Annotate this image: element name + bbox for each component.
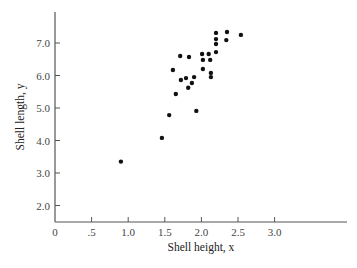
y-tick-label: 2.0 bbox=[36, 200, 50, 212]
data-point bbox=[178, 54, 182, 58]
y-axis: 2.03.04.05.06.07.0 Shell length, y bbox=[14, 12, 60, 222]
x-tick-label: 0 bbox=[52, 226, 58, 238]
data-point bbox=[187, 55, 191, 59]
data-point bbox=[214, 50, 218, 54]
data-point bbox=[179, 78, 183, 82]
data-point bbox=[214, 37, 218, 41]
x-tick-label: 1.5 bbox=[158, 226, 172, 238]
data-point bbox=[194, 109, 198, 113]
y-ticks: 2.03.04.05.06.07.0 bbox=[36, 37, 60, 212]
data-point bbox=[214, 31, 218, 35]
data-point bbox=[190, 81, 194, 85]
data-point bbox=[225, 30, 229, 34]
data-point bbox=[209, 75, 213, 79]
data-point bbox=[200, 52, 204, 56]
y-tick-label: 4.0 bbox=[36, 135, 50, 147]
data-point bbox=[208, 58, 212, 62]
data-point bbox=[167, 113, 171, 117]
data-point bbox=[209, 71, 213, 75]
scatter-chart: 2.03.04.05.06.07.0 Shell length, y 0.51.… bbox=[0, 0, 357, 268]
x-tick-label: 2.5 bbox=[231, 226, 245, 238]
data-point bbox=[224, 38, 228, 42]
y-tick-label: 5.0 bbox=[36, 102, 50, 114]
y-tick-label: 6.0 bbox=[36, 70, 50, 82]
x-tick-label: .5 bbox=[87, 226, 96, 238]
data-point bbox=[171, 68, 175, 72]
x-tick-label: 3.0 bbox=[268, 226, 282, 238]
data-point bbox=[201, 58, 205, 62]
data-point bbox=[207, 52, 211, 56]
data-point bbox=[186, 86, 190, 90]
data-point bbox=[239, 33, 243, 37]
x-tick-label: 1.0 bbox=[121, 226, 135, 238]
data-points bbox=[119, 30, 243, 164]
data-point bbox=[160, 136, 164, 140]
x-axis: 0.51.01.52.02.53.0 Shell height, x bbox=[52, 217, 347, 254]
x-axis-title: Shell height, x bbox=[168, 241, 235, 254]
x-ticks: 0.51.01.52.02.53.0 bbox=[52, 217, 282, 238]
data-point bbox=[119, 159, 123, 163]
data-point bbox=[192, 75, 196, 79]
y-tick-label: 7.0 bbox=[36, 37, 50, 49]
data-point bbox=[184, 76, 188, 80]
y-tick-label: 3.0 bbox=[36, 167, 50, 179]
x-tick-label: 2.0 bbox=[195, 226, 209, 238]
data-point bbox=[201, 67, 205, 71]
y-axis-title: Shell length, y bbox=[14, 83, 27, 150]
data-point bbox=[174, 92, 178, 96]
data-point bbox=[214, 42, 218, 46]
